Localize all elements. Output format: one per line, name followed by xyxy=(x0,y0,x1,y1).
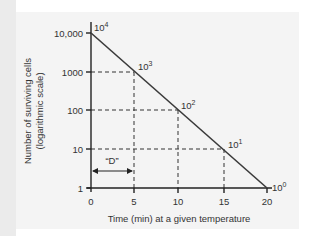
point-label: 102 xyxy=(181,99,196,111)
d-value-label: “D” xyxy=(105,155,118,166)
point-label: 100 xyxy=(272,181,287,193)
x-tick-label: 15 xyxy=(219,196,230,207)
y-tick-label: 1 xyxy=(78,183,83,194)
d-value-arrow xyxy=(92,168,133,174)
svg-text:Number of surviving cells: Number of surviving cells xyxy=(22,58,33,164)
point-label: 104 xyxy=(94,21,109,33)
y-tick-label: 100 xyxy=(67,105,83,116)
chart: “D” 10,000 1000 100 10 1 0 5 10 15 20 10… xyxy=(0,0,310,236)
y-tick-label: 10 xyxy=(72,144,83,155)
point-label: 101 xyxy=(228,138,243,150)
svg-text:(logarithmic scale): (logarithmic scale) xyxy=(34,72,45,149)
y-tick-label: 10,000 xyxy=(54,28,83,39)
x-axis-title: Time (min) at a given temperature xyxy=(108,213,251,224)
y-tick-label: 1000 xyxy=(62,67,83,78)
x-tick-label: 10 xyxy=(173,196,184,207)
point-label: 103 xyxy=(138,60,153,72)
x-tick-label: 20 xyxy=(262,196,273,207)
x-tick-label: 5 xyxy=(131,196,136,207)
x-tick-label: 0 xyxy=(88,196,93,207)
y-axis-title: Number of surviving cells (logarithmic s… xyxy=(22,58,45,164)
